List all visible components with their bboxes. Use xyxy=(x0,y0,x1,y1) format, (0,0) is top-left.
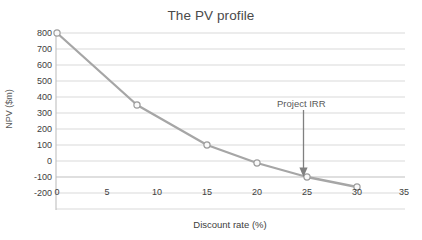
x-tick-label: 10 xyxy=(137,188,177,197)
project-irr-annotation-label: Project IRR xyxy=(277,98,326,109)
x-tick-label: 25 xyxy=(287,188,327,197)
x-tick-label: 20 xyxy=(237,188,277,197)
x-tick-label: 5 xyxy=(87,188,127,197)
chart-container: The PV profile NPV ($m) 800 700 600 500 … xyxy=(0,0,422,240)
x-tick-label: 35 xyxy=(384,188,422,197)
project-irr-arrow-icon xyxy=(299,110,307,177)
x-axis-tick-labels: 0 5 10 15 20 25 30 35 xyxy=(0,188,422,202)
npv-profile-line xyxy=(57,33,357,187)
gridlines xyxy=(56,33,405,209)
x-tick-label: 30 xyxy=(337,188,377,197)
chart-plot-area xyxy=(0,0,422,240)
npv-profile-markers xyxy=(54,30,360,190)
x-tick-label: 0 xyxy=(37,188,77,197)
x-tick-label: 15 xyxy=(187,188,227,197)
x-axis-title: Discount rate (%) xyxy=(55,219,405,230)
